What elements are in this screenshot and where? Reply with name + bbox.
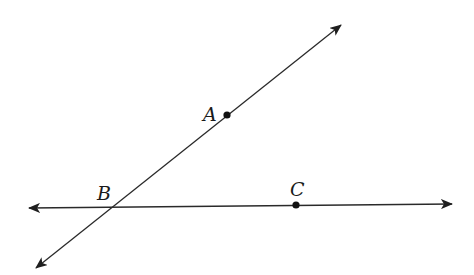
label-a: A [201, 103, 217, 125]
label-b: B [96, 182, 111, 204]
point-c [292, 201, 299, 208]
label-c: C [290, 178, 305, 200]
geometry-diagram: A B C [0, 0, 474, 275]
line-ab [36, 25, 341, 268]
line-bc [29, 204, 452, 208]
point-a [223, 111, 230, 118]
diagram-svg: A B C [0, 0, 474, 275]
